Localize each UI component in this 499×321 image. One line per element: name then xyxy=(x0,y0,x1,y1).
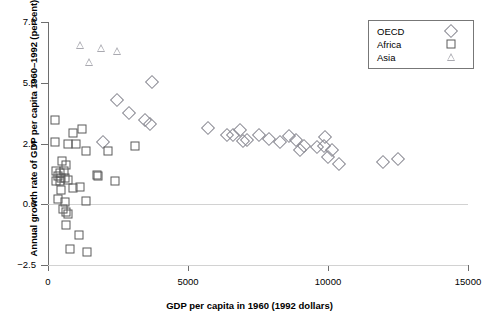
data-point-oecd xyxy=(96,135,110,149)
legend-diamond-icon xyxy=(444,24,458,38)
legend-item-oecd: OECD xyxy=(377,25,469,38)
data-point-asia xyxy=(113,47,121,55)
legend-square-icon xyxy=(447,40,456,49)
data-point-oecd xyxy=(233,123,247,137)
data-point-oecd xyxy=(318,130,332,144)
legend-item-africa: Africa xyxy=(377,38,469,51)
data-point-oecd xyxy=(376,155,390,169)
data-point-africa xyxy=(62,161,71,170)
y-tick-label: 2.5 xyxy=(4,139,36,149)
data-point-oecd xyxy=(332,157,346,171)
data-point-oecd xyxy=(297,139,311,153)
y-axis-line xyxy=(48,22,49,265)
x-tick-label: 0 xyxy=(18,277,78,287)
data-point-africa xyxy=(93,171,102,180)
data-point-oecd xyxy=(143,117,157,131)
data-point-oecd xyxy=(226,128,240,142)
data-point-oecd xyxy=(220,128,234,142)
data-point-africa xyxy=(74,230,83,239)
data-point-africa xyxy=(61,207,70,216)
data-point-oecd xyxy=(293,142,307,156)
data-point-africa xyxy=(53,195,62,204)
data-point-africa xyxy=(63,175,72,184)
data-point-africa xyxy=(57,173,66,182)
data-point-oecd xyxy=(240,133,254,147)
data-point-africa xyxy=(69,184,78,193)
data-point-africa xyxy=(104,146,113,155)
data-point-oecd xyxy=(282,129,296,143)
data-point-africa xyxy=(59,167,68,176)
data-point-africa xyxy=(61,220,70,229)
data-point-africa xyxy=(69,128,78,137)
legend-triangle-icon xyxy=(447,53,455,61)
data-point-africa xyxy=(58,156,67,165)
data-point-africa xyxy=(56,177,65,186)
legend: OECD Africa Asia xyxy=(368,20,474,69)
data-point-africa xyxy=(83,247,92,256)
data-point-oecd xyxy=(310,140,324,154)
y-tick-label: 0.0 xyxy=(4,199,36,209)
data-point-oecd xyxy=(122,106,136,120)
y-tick xyxy=(41,83,48,84)
data-point-oecd xyxy=(236,134,250,148)
data-point-africa xyxy=(72,139,81,148)
data-point-africa xyxy=(51,116,60,125)
data-point-oecd xyxy=(201,121,215,135)
scatter-plot: Annual growth rate of GDP per capita 196… xyxy=(0,0,499,321)
data-point-asia xyxy=(85,58,93,66)
data-point-africa xyxy=(76,183,85,192)
data-point-africa xyxy=(58,205,67,214)
data-point-africa xyxy=(57,185,66,194)
reference-line xyxy=(48,204,468,205)
data-point-oecd xyxy=(289,133,303,147)
data-point-asia xyxy=(76,41,84,49)
legend-label-africa: Africa xyxy=(377,38,401,51)
y-tick xyxy=(41,204,48,205)
data-point-asia xyxy=(97,44,105,52)
y-tick-label: 7.5 xyxy=(4,17,36,27)
y-axis-label: Annual growth rate of GDP per capita 196… xyxy=(28,7,39,257)
data-point-oecd xyxy=(317,139,331,153)
data-point-oecd xyxy=(321,150,335,164)
data-point-africa xyxy=(66,245,75,254)
data-point-oecd xyxy=(252,128,266,142)
reference-line xyxy=(48,265,468,266)
data-point-africa xyxy=(130,141,139,150)
data-point-oecd xyxy=(273,135,287,149)
data-point-africa xyxy=(60,173,69,182)
x-tick xyxy=(468,265,469,271)
x-tick-label: 5000 xyxy=(158,277,218,287)
data-point-africa xyxy=(81,146,90,155)
data-point-oecd xyxy=(391,152,405,166)
data-point-africa xyxy=(52,177,61,186)
data-point-africa xyxy=(111,177,120,186)
data-point-africa xyxy=(53,172,62,181)
legend-label-asia: Asia xyxy=(377,51,395,64)
y-tick-label: −2.5 xyxy=(4,260,36,270)
data-point-oecd xyxy=(110,93,124,107)
data-point-oecd xyxy=(262,132,276,146)
data-point-oecd xyxy=(325,142,339,156)
data-point-africa xyxy=(63,139,72,148)
y-tick-label: 5.0 xyxy=(4,78,36,88)
data-point-africa xyxy=(77,124,86,133)
data-point-africa xyxy=(94,172,103,181)
y-tick xyxy=(41,22,48,23)
data-point-oecd xyxy=(145,74,159,88)
x-tick-label: 10000 xyxy=(298,277,358,287)
data-point-africa xyxy=(51,138,60,147)
y-tick xyxy=(41,265,48,266)
legend-label-oecd: OECD xyxy=(377,25,404,38)
x-axis-label: GDP per capita in 1960 (1992 dollars) xyxy=(0,300,499,311)
data-point-africa xyxy=(63,209,72,218)
data-point-africa xyxy=(55,168,64,177)
data-point-africa xyxy=(52,167,61,176)
y-tick xyxy=(41,144,48,145)
x-tick-label: 15000 xyxy=(438,277,498,287)
data-point-oecd xyxy=(138,113,152,127)
legend-item-asia: Asia xyxy=(377,51,469,64)
